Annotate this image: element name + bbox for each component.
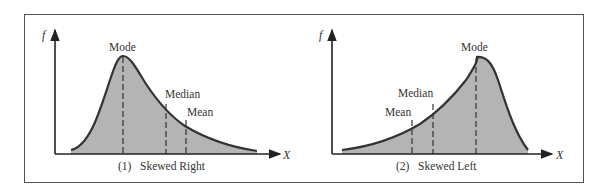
x-axis-label: X — [282, 148, 291, 162]
median-label: Median — [165, 88, 200, 100]
mean-label: Mean — [187, 106, 213, 118]
y-axis-label: f — [42, 28, 47, 42]
panel-caption: (2) Skewed Left — [396, 160, 477, 173]
panel-skewed-right: f X Mode Median Mean (1) Skewed Right — [42, 28, 291, 173]
median-label: Median — [398, 87, 433, 99]
panel-caption: (1) Skewed Right — [118, 160, 206, 173]
distribution-area — [342, 57, 528, 154]
mode-label: Mode — [461, 41, 488, 53]
y-axis-label: f — [319, 28, 324, 42]
mode-label: Mode — [109, 41, 136, 53]
panel-skewed-left: f X Mode Median Mean (2) Skewed Left — [319, 28, 564, 173]
mean-label: Mean — [385, 106, 411, 118]
skewness-diagram: f X Mode Median Mean (1) Skewed Right f … — [0, 0, 611, 194]
x-axis-label: X — [555, 148, 564, 162]
distribution-area — [71, 56, 257, 154]
